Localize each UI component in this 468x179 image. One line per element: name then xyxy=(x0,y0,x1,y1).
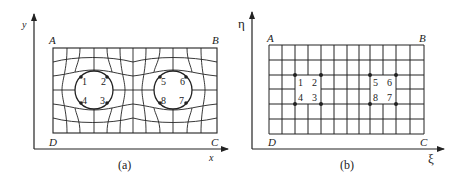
point-label-6-b: 6 xyxy=(387,77,392,88)
corner-label-B-a: B xyxy=(212,34,219,46)
grid-lines-b xyxy=(269,45,424,134)
corner-label-A-a: A xyxy=(48,34,56,46)
point-label-5-b: 5 xyxy=(373,77,378,88)
point-label-8-a: 8 xyxy=(161,95,166,106)
caption-b: (b) xyxy=(340,158,354,172)
corner-label-B-b: B xyxy=(419,32,426,44)
panel-a: 1 2 3 4 5 6 7 8 A B C D y x (a) xyxy=(21,14,228,172)
corner-label-C-a: C xyxy=(211,136,219,148)
point-label-7-b: 7 xyxy=(387,92,392,103)
point-label-5-a: 5 xyxy=(161,76,166,87)
axis-label-eta-b: η xyxy=(238,16,245,31)
axis-label-xi-b: ξ xyxy=(428,151,434,166)
point-label-1-a: 1 xyxy=(82,76,87,87)
point-label-4-b: 4 xyxy=(298,92,303,103)
point-label-4-a: 4 xyxy=(82,95,87,106)
axis-label-y-a: y xyxy=(21,19,27,30)
point-label-3-a: 3 xyxy=(100,95,105,106)
panel-b: 1 2 3 4 5 6 7 8 A B C D η ξ (b) xyxy=(238,12,444,172)
figure-canvas: 1 2 3 4 5 6 7 8 A B C D y x (a) xyxy=(0,0,468,179)
point-label-3-b: 3 xyxy=(312,92,317,103)
corner-label-C-b: C xyxy=(420,136,428,148)
point-label-7-a: 7 xyxy=(179,95,184,106)
axis-label-x-a: x xyxy=(208,152,214,163)
corner-label-D-a: D xyxy=(48,136,57,148)
corner-label-D-b: D xyxy=(267,136,276,148)
point-label-2-a: 2 xyxy=(101,76,106,87)
point-label-2-b: 2 xyxy=(312,77,317,88)
corner-label-A-b: A xyxy=(266,32,274,44)
caption-a: (a) xyxy=(118,158,131,172)
point-label-1-b: 1 xyxy=(298,77,303,88)
point-label-8-b: 8 xyxy=(373,92,378,103)
point-label-6-a: 6 xyxy=(180,76,185,87)
